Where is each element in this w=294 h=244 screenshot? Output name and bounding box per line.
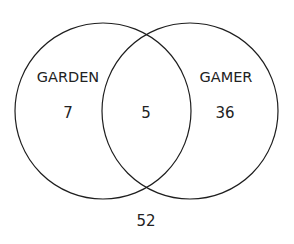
intersection-count: 5	[141, 104, 151, 122]
gamer-label: GAMER	[200, 69, 253, 85]
gamer-circle	[102, 23, 278, 199]
garden-label: GARDEN	[37, 69, 99, 85]
venn-diagram: GARDEN GAMER 7 5 36 52	[0, 0, 294, 244]
gamer-only-count: 36	[215, 104, 234, 122]
garden-only-count: 7	[63, 104, 73, 122]
garden-circle	[15, 23, 191, 199]
outside-count: 52	[136, 212, 155, 230]
